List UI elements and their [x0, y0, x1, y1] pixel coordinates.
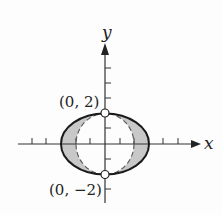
- point-bottom-marker: [101, 171, 109, 179]
- point-top-label: (0, 2): [59, 93, 99, 111]
- x-axis-arrow-icon: [191, 140, 201, 148]
- point-bottom-label: (0, −2): [49, 181, 102, 199]
- y-axis-label: y: [101, 22, 112, 42]
- diagram-canvas: y x (0, 2) (0, −2): [0, 0, 222, 215]
- x-axis-label: x: [204, 133, 214, 153]
- y-axis: [101, 43, 111, 203]
- y-axis-arrow-icon: [101, 43, 109, 55]
- point-top-marker: [101, 109, 109, 117]
- ellipse-circle-diagram: y x (0, 2) (0, −2): [0, 0, 222, 215]
- x-axis: [18, 138, 201, 148]
